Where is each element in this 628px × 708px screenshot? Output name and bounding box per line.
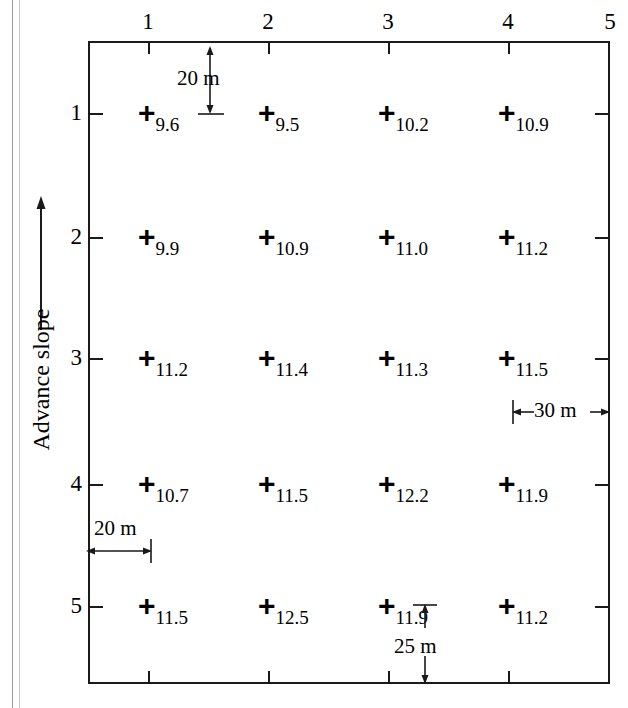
data-point: +12.5: [258, 591, 309, 621]
y-tick-left-2: [90, 237, 103, 239]
dimension-top: 20 m: [176, 46, 256, 116]
data-point-value: 10.2: [396, 114, 429, 135]
y-axis-tick-label-5: 5: [56, 594, 82, 617]
x-tick-top-1: [148, 43, 150, 54]
data-point: +10.9: [258, 222, 309, 252]
y-tick-right-4: [595, 484, 608, 486]
y-tick-left-3: [90, 358, 103, 360]
data-point-value: 11.3: [396, 359, 429, 380]
plot-frame: +9.6 +9.5 +10.2 +10.9 +9.9 +10.9 +11.0 +…: [88, 41, 610, 684]
y-axis-tick-label-2: 2: [56, 225, 82, 248]
data-point-value: 12.5: [276, 607, 309, 628]
x-tick-bottom-1: [148, 671, 150, 682]
data-point-value: 10.7: [156, 485, 189, 506]
x-axis-tick-label-3: 3: [373, 10, 403, 33]
x-tick-bottom-4: [508, 671, 510, 682]
data-point-value: 12.2: [396, 485, 429, 506]
x-tick-top-2: [268, 43, 270, 54]
advance-slope-axis-group: Advance slope: [18, 196, 66, 606]
data-point-value: 11.5: [516, 359, 549, 380]
data-point-value: 10.9: [276, 238, 309, 259]
y-axis-tick-label-1: 1: [56, 101, 82, 124]
plus-marker-icon: +: [258, 467, 276, 500]
dimension-top-label: 20 m: [177, 68, 220, 89]
y-axis-tick-label-4: 4: [56, 472, 82, 495]
data-point: +9.5: [258, 98, 299, 128]
plus-marker-icon: +: [258, 589, 276, 622]
data-point-value: 11.5: [276, 485, 309, 506]
data-point-value: 11.5: [156, 607, 189, 628]
data-point: +11.0: [378, 222, 428, 252]
y-tick-left-5: [90, 606, 103, 608]
dimension-right: 30 m: [508, 395, 614, 429]
plus-marker-icon: +: [378, 220, 396, 253]
plus-marker-icon: +: [258, 96, 276, 129]
x-tick-bottom-2: [268, 671, 270, 682]
data-point: +10.2: [378, 98, 429, 128]
data-point-value: 11.2: [156, 359, 189, 380]
page-margin-rule-outer: [12, 0, 13, 708]
plus-marker-icon: +: [378, 467, 396, 500]
data-point-value: 9.9: [156, 238, 180, 259]
data-point-value: 10.9: [516, 114, 549, 135]
plus-marker-icon: +: [498, 589, 516, 622]
x-axis-tick-label-2: 2: [253, 10, 283, 33]
data-point: +11.2: [498, 591, 548, 621]
plus-marker-icon: +: [138, 96, 156, 129]
data-point: +11.4: [258, 343, 308, 373]
y-tick-right-3: [595, 358, 608, 360]
dimension-right-label: 30 m: [534, 400, 577, 421]
data-point: +10.9: [498, 98, 549, 128]
x-tick-bottom-3: [388, 671, 390, 682]
data-point: +10.7: [138, 469, 189, 499]
plus-marker-icon: +: [498, 96, 516, 129]
plus-marker-icon: +: [138, 467, 156, 500]
y-tick-right-5: [595, 606, 608, 608]
plus-marker-icon: +: [138, 589, 156, 622]
x-axis-tick-label-1: 1: [133, 10, 163, 33]
y-tick-left-4: [90, 484, 103, 486]
data-point: +11.9: [498, 469, 548, 499]
y-tick-left-1: [90, 113, 103, 115]
data-point: +11.2: [498, 222, 548, 252]
plus-marker-icon: +: [498, 467, 516, 500]
x-tick-top-4: [508, 43, 510, 54]
data-point-value: 9.6: [156, 114, 180, 135]
plus-marker-icon: +: [138, 220, 156, 253]
data-point: +9.6: [138, 98, 179, 128]
y-axis-tick-label-3: 3: [56, 346, 82, 369]
plus-marker-icon: +: [378, 341, 396, 374]
y-tick-right-2: [595, 237, 608, 239]
data-point: +11.5: [258, 469, 308, 499]
y-axis-title: Advance slope: [28, 280, 55, 480]
dimension-left-label: 20 m: [94, 518, 137, 539]
data-point: +12.2: [378, 469, 429, 499]
data-point-value: 11.0: [396, 238, 429, 259]
plus-marker-icon: +: [498, 341, 516, 374]
data-point: +11.3: [378, 343, 428, 373]
y-tick-right-1: [595, 113, 608, 115]
plus-marker-icon: +: [138, 341, 156, 374]
data-point-value: 9.5: [276, 114, 300, 135]
data-point-value: 11.2: [516, 607, 549, 628]
data-point-value: 11.9: [516, 485, 549, 506]
data-point-value: 11.4: [276, 359, 309, 380]
x-tick-top-3: [388, 43, 390, 54]
figure-container: Advance slope 1 2 3 4 5 1 2 3 4 5 +9.6: [0, 0, 628, 708]
data-point: +11.2: [138, 343, 188, 373]
data-point: +9.9: [138, 222, 179, 252]
data-point: +11.5: [498, 343, 548, 373]
plus-marker-icon: +: [258, 220, 276, 253]
dimension-bottom: 25 m: [398, 600, 494, 686]
dimension-bottom-label: 25 m: [394, 636, 437, 657]
data-point: +11.5: [138, 591, 188, 621]
plus-marker-icon: +: [258, 341, 276, 374]
x-axis-tick-label-5: 5: [595, 10, 625, 33]
plus-marker-icon: +: [378, 589, 396, 622]
plus-marker-icon: +: [498, 220, 516, 253]
data-point-value: 11.2: [516, 238, 549, 259]
plus-marker-icon: +: [378, 96, 396, 129]
x-axis-tick-label-4: 4: [493, 10, 523, 33]
dimension-left: 20 m: [86, 518, 166, 570]
